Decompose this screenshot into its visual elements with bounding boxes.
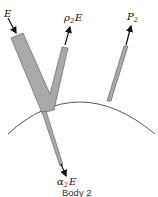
incident-arrow	[8, 18, 16, 33]
radiation-diagram: E ρ2E P2 α2E Body 2	[0, 0, 158, 197]
incident-label: E	[3, 8, 12, 19]
incident-reflected-beam	[11, 33, 68, 113]
reflected-arrow	[65, 27, 70, 45]
emitted-arrow	[126, 26, 131, 45]
transmitted-beam	[42, 111, 63, 166]
body-surface-arc	[8, 102, 155, 134]
transmitted-arrow	[61, 164, 66, 176]
body-caption: Body 2	[62, 187, 92, 197]
emitted-label: P2	[126, 11, 138, 24]
emitted-beam	[107, 46, 128, 101]
reflected-label: ρ2E	[63, 12, 83, 25]
